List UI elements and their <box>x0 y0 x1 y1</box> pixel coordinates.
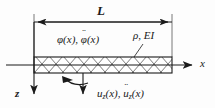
translation-dof-label: uz(x), ¨uz(x) <box>97 88 144 100</box>
u-arg: (x) <box>106 87 118 99</box>
phi-accel-arg: (x) <box>87 33 99 45</box>
rotation-dof-label: φ(x), ¨φ(x) <box>57 34 99 45</box>
beam-schematic-figure: L φ(x), ¨φ(x) ρ, EI x z uz(x), ¨uz(x) <box>0 0 215 108</box>
z-axis-label: z <box>15 88 19 99</box>
phi-accel-symbol: ¨φ <box>81 34 87 45</box>
material-stiffness-label: ρ, EI <box>133 30 154 41</box>
length-dimension-label: L <box>97 4 105 17</box>
phi-arg: (x) <box>63 33 75 45</box>
u-accel-arg: (x) <box>132 87 144 99</box>
material-leader-line <box>134 44 143 57</box>
u-accel-symbol: ¨u <box>123 88 129 99</box>
u-accel-dots: ¨ <box>124 83 127 93</box>
x-axis-label: x <box>200 58 205 69</box>
rotation-arrow <box>62 76 88 85</box>
phi-accel-dots: ¨ <box>82 29 85 39</box>
